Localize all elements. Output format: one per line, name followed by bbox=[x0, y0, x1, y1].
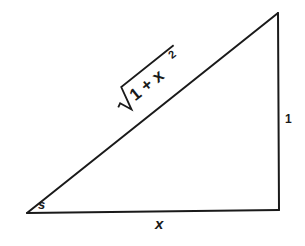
height-label-1: 1 bbox=[285, 112, 292, 126]
base-label-x: x bbox=[154, 215, 164, 232]
hypotenuse-label: 1 + x 2 bbox=[110, 45, 189, 115]
base-edge bbox=[27, 210, 279, 213]
angle-label-s: s bbox=[38, 197, 45, 212]
exponent-text: 2 bbox=[166, 48, 178, 61]
height-edge bbox=[278, 13, 279, 210]
hypotenuse-edge bbox=[27, 13, 278, 213]
right-triangle-diagram: s x 1 1 + x 2 bbox=[0, 0, 305, 246]
radicand-text: 1 + x bbox=[126, 65, 168, 104]
